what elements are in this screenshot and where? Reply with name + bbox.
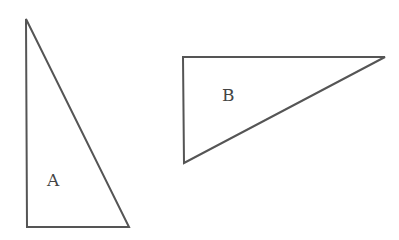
triangle-a: A	[26, 19, 129, 227]
triangle-a-shape	[26, 19, 129, 227]
triangle-b-label: B	[222, 85, 235, 105]
triangle-a-label: A	[46, 170, 60, 190]
triangle-b-shape	[183, 57, 385, 163]
triangles-diagram: A B	[0, 0, 399, 240]
triangle-b: B	[183, 57, 385, 163]
